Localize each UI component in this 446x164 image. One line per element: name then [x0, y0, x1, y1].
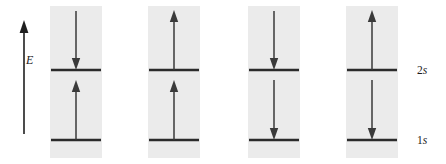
up-arrow-icon: [368, 10, 376, 70]
orbital-label-1s: 1s: [417, 135, 427, 147]
up-arrow-icon: [72, 80, 80, 140]
down-arrow-icon: [368, 80, 376, 140]
energy-axis: [14, 18, 40, 134]
up-arrow-icon: [14, 18, 40, 134]
down-arrow-icon: [72, 11, 80, 70]
panel-1-levels: [50, 6, 102, 158]
panel-4-levels: [346, 6, 398, 158]
orbital-label-1s-symbol: s: [423, 134, 427, 146]
up-arrow-icon: [170, 80, 178, 140]
orbital-energy-level-figure: E: [0, 0, 446, 164]
down-arrow-icon: [270, 11, 278, 70]
energy-axis-label: E: [26, 54, 34, 66]
configuration-panel-1: [50, 6, 102, 158]
configuration-panel-3: [248, 6, 300, 158]
up-arrow-icon: [170, 10, 178, 70]
configuration-panel-2: [148, 6, 200, 158]
configuration-panel-4: [346, 6, 398, 158]
down-arrow-icon: [270, 80, 278, 140]
orbital-label-2s-symbol: s: [423, 64, 427, 76]
panel-2-levels: [148, 6, 200, 158]
orbital-label-2s: 2s: [417, 65, 427, 77]
panel-3-levels: [248, 6, 300, 158]
